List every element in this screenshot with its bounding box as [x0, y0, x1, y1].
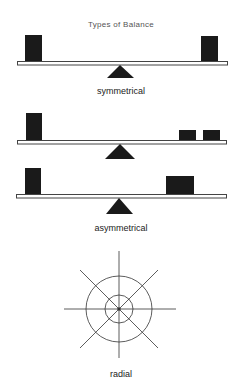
weight-block-left — [25, 168, 41, 194]
label-symmetrical: symmetrical — [0, 86, 242, 96]
weight-block-left — [26, 113, 42, 140]
weight-block-small-1 — [179, 130, 196, 140]
beam — [18, 141, 227, 145]
beam — [17, 195, 227, 199]
weight-block-large — [166, 176, 194, 194]
radial-center-dot — [118, 308, 121, 311]
balance-diagrams — [0, 0, 242, 391]
label-radial: radial — [0, 369, 242, 379]
seesaw-asymmetrical-a — [18, 113, 227, 159]
weight-block-right — [201, 36, 218, 61]
fulcrum — [107, 65, 134, 78]
weight-block-small-2 — [203, 130, 220, 140]
fulcrum — [105, 144, 135, 159]
label-asymmetrical: asymmetrical — [0, 223, 242, 233]
seesaw-symmetrical — [18, 35, 228, 78]
radial-diagram — [64, 251, 176, 358]
seesaw-asymmetrical-b — [17, 168, 227, 214]
fulcrum — [106, 198, 133, 214]
beam — [18, 62, 228, 66]
weight-block-left — [25, 35, 42, 61]
